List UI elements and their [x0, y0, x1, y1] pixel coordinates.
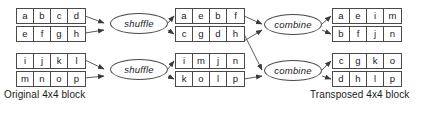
cell: b: [333, 27, 350, 41]
cell: m: [17, 72, 34, 86]
cell: f: [227, 9, 244, 23]
cell: f: [34, 27, 51, 41]
cell: i: [176, 54, 193, 68]
shuffle-operator-bottom: shuffle: [110, 59, 168, 80]
cell: k: [367, 54, 384, 68]
cell: p: [227, 72, 244, 86]
original-block-caption: Original 4x4 block: [4, 89, 85, 100]
edge-mid-row4-to-combine-bottom: [244, 76, 262, 79]
edge-shuffle-bottom-to-mid-row4: [168, 76, 174, 79]
cell: a: [176, 9, 193, 23]
edge-orig-row2-to-shuffle-top: [85, 30, 104, 33]
edge-orig-row4-to-shuffle-bottom: [85, 76, 104, 78]
cell: e: [193, 9, 210, 23]
cell: l: [210, 72, 227, 86]
cell: o: [51, 72, 68, 86]
transpose-diagram: a b c d e f g h i j k l m n o p shuffle …: [0, 0, 433, 113]
transposed-block-caption: Transposed 4x4 block: [310, 89, 409, 100]
edge-shuffle-top-to-mid-row2: [168, 30, 174, 34]
cell: k: [51, 54, 68, 68]
cell: n: [227, 54, 244, 68]
table-row: a e b f: [175, 8, 245, 24]
cell: e: [17, 27, 34, 41]
cell: j: [367, 27, 384, 41]
cell: a: [333, 9, 350, 23]
cell: e: [350, 9, 367, 23]
cell: j: [210, 54, 227, 68]
cell: l: [68, 54, 85, 68]
cell: h: [350, 72, 367, 86]
cell: h: [227, 27, 244, 41]
table-row: a e i m: [332, 8, 402, 24]
edge-orig-row1-to-shuffle-top: [85, 16, 104, 23]
edge-mid-row2-to-combine-bottom: [244, 34, 262, 70]
edge-combine-bottom-to-trans-row4: [322, 76, 331, 79]
combine-operator-top: combine: [264, 14, 322, 35]
edge-orig-row3-to-shuffle-bottom: [85, 60, 104, 69]
cell: p: [68, 72, 85, 86]
edge-shuffle-top-to-mid-row1: [168, 16, 174, 23]
shuffle-operator-top: shuffle: [110, 13, 168, 34]
cell: k: [176, 72, 193, 86]
table-row: b f j n: [332, 26, 402, 42]
cell: c: [176, 27, 193, 41]
cell: n: [384, 27, 401, 41]
cell: d: [68, 9, 85, 23]
edge-shuffle-bottom-to-mid-row3: [168, 61, 174, 69]
cell: n: [34, 72, 51, 86]
cell: f: [350, 27, 367, 41]
cell: p: [384, 72, 401, 86]
edge-combine-bottom-to-trans-row3: [322, 61, 331, 70]
combine-operator-bottom: combine: [264, 60, 322, 81]
table-row: a b c d: [16, 8, 86, 24]
cell: i: [367, 9, 384, 23]
cell: i: [17, 54, 34, 68]
cell: c: [333, 54, 350, 68]
edge-combine-top-to-trans-row1: [322, 16, 331, 24]
cell: o: [193, 72, 210, 86]
cell: d: [210, 27, 227, 41]
cell: c: [51, 9, 68, 23]
cell: g: [51, 27, 68, 41]
cell: j: [34, 54, 51, 68]
cell: h: [68, 27, 85, 41]
table-row: i j k l: [16, 53, 86, 69]
cell: d: [333, 72, 350, 86]
table-row: c g d h: [175, 26, 245, 42]
cell: g: [350, 54, 367, 68]
cell: b: [210, 9, 227, 23]
cell: m: [193, 54, 210, 68]
cell: g: [193, 27, 210, 41]
table-row: i m j n: [175, 53, 245, 69]
cell: b: [34, 9, 51, 23]
cell: a: [17, 9, 34, 23]
table-row: c g k o: [332, 53, 402, 69]
edge-mid-row1-to-combine-top: [244, 16, 262, 24]
edge-mid-row3-to-combine-top: [244, 30, 262, 41]
table-row: k o l p: [175, 71, 245, 87]
table-row: e f g h: [16, 26, 86, 42]
table-row: d h l p: [332, 71, 402, 87]
cell: o: [384, 54, 401, 68]
cell: m: [384, 9, 401, 23]
edge-combine-top-to-trans-row2: [322, 30, 331, 34]
table-row: m n o p: [16, 71, 86, 87]
cell: l: [367, 72, 384, 86]
